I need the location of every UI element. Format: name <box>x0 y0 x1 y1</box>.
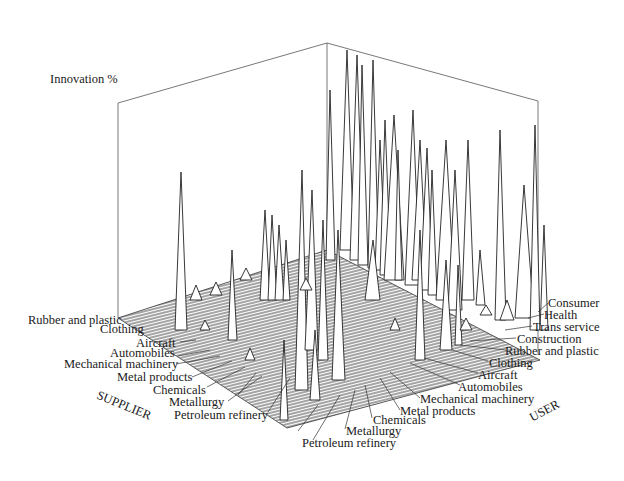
supplier-label: Petroleum refinery <box>174 409 268 422</box>
supplier-label: Mechanical machinery <box>64 358 178 371</box>
z-axis-title: Innovation % <box>50 72 118 87</box>
supplier-label: Metal products <box>117 371 192 384</box>
supplier-label: Metallurgy <box>169 396 224 409</box>
user-label: Petroleum refinery <box>302 437 396 450</box>
supplier-label: Clothing <box>100 323 144 336</box>
